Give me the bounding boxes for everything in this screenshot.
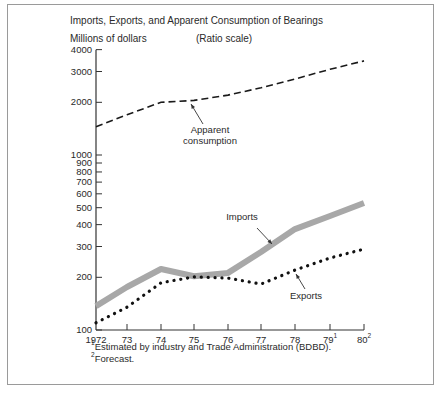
footnote-text: Estimated by industry and Trade Administ…	[95, 341, 332, 352]
annotation-label-line2: consumption	[180, 135, 240, 146]
footnote-1: 1Estimated by industry and Trade Adminis…	[91, 341, 331, 352]
y-tick-label: 200	[52, 271, 92, 282]
annotation-imports: Imports	[222, 211, 262, 222]
y-tick-label: 300	[52, 241, 92, 252]
y-tick-label: 3000	[52, 66, 92, 77]
y-tick-label: 500	[52, 202, 92, 213]
footnote-text: Forecast.	[95, 353, 135, 364]
y-tick-label: 1000	[52, 149, 92, 160]
series-exports	[96, 249, 364, 323]
footnote-2: 2Forecast.	[91, 353, 134, 364]
y-tick-label: 400	[52, 219, 92, 230]
y-tick-label: 600	[52, 188, 92, 199]
y-tick-label: 4000	[52, 44, 92, 55]
annotation-label-line1: Apparent	[180, 124, 240, 135]
x-tick-label: 802	[347, 334, 381, 345]
y-tick-label: 700	[52, 176, 92, 187]
annotation-exports: Exports	[286, 290, 326, 301]
annotation-apparent-consumption: Apparent consumption	[180, 124, 240, 146]
y-tick-label: 2000	[52, 96, 92, 107]
series-apparent-consumption	[96, 61, 364, 127]
